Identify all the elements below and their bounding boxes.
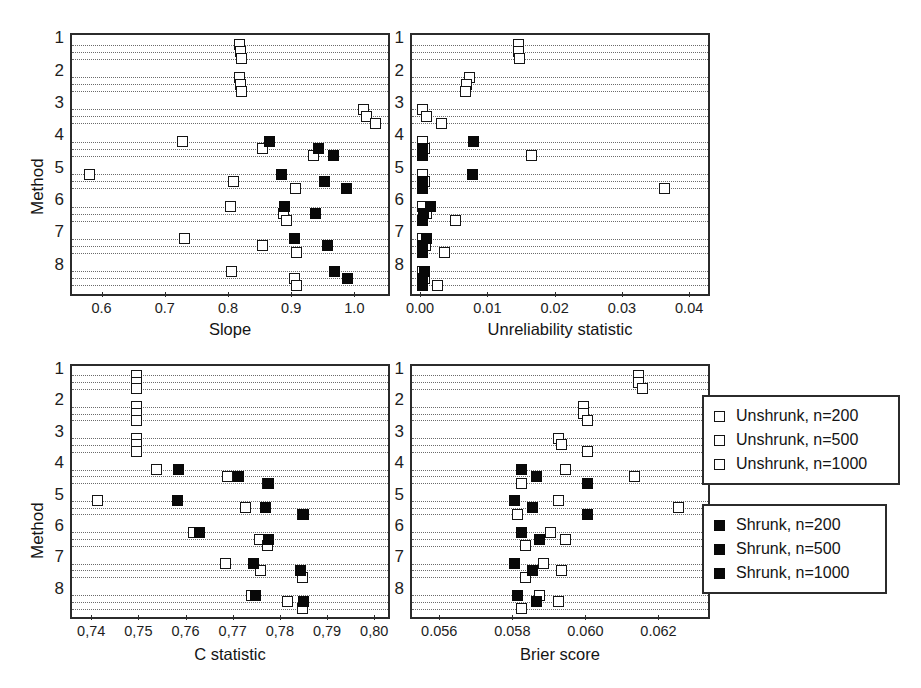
- legend-label: Shrunk, n=200: [736, 516, 841, 534]
- y-tick-label-method-5: 5: [384, 158, 404, 178]
- data-point-shrunk: [233, 471, 244, 482]
- x-tick-label: 0,76: [171, 623, 199, 639]
- data-point-unshrunk: [512, 509, 523, 520]
- gridline: [72, 253, 388, 254]
- x-tickmark: [233, 615, 234, 620]
- gridline: [72, 123, 388, 124]
- x-tick-label: 1.0: [344, 300, 364, 316]
- open-square-icon: [714, 459, 725, 470]
- gridline: [72, 595, 388, 596]
- data-point-shrunk: [289, 233, 300, 244]
- gridline: [412, 452, 708, 453]
- y-tick-label-method-3: 3: [384, 93, 404, 113]
- data-point-shrunk: [310, 208, 321, 219]
- gridline: [72, 52, 388, 53]
- gridline: [72, 45, 388, 46]
- gridline: [72, 109, 388, 110]
- legend-item: Unshrunk, n=200: [714, 404, 886, 428]
- panel-unreliability: 0.000.010.020.030.0412345678 Unreliabili…: [390, 0, 720, 344]
- data-point-shrunk: [342, 273, 353, 284]
- gridline: [412, 375, 708, 376]
- data-point-unshrunk: [220, 558, 231, 569]
- data-point-shrunk: [509, 558, 520, 569]
- y-tick-label-method-5: 5: [44, 485, 64, 505]
- x-tickmark: [165, 292, 166, 297]
- y-tick-label-method-4: 4: [44, 125, 64, 145]
- gridline: [412, 407, 708, 408]
- panel-brier-score-plot-area: [410, 364, 710, 619]
- data-point-shrunk: [531, 596, 542, 607]
- y-tick-label-method-7: 7: [44, 547, 64, 567]
- legend-shrunk: Shrunk, n=200 Shrunk, n=500 Shrunk, n=10…: [702, 504, 887, 594]
- x-tick-label: 0,75: [124, 623, 152, 639]
- gridline: [72, 539, 388, 540]
- x-tick-label: 0.062: [640, 623, 676, 639]
- gridline: [412, 84, 708, 85]
- data-point-shrunk: [527, 502, 538, 513]
- y-tick-label-method-7: 7: [384, 547, 404, 567]
- gridline: [412, 239, 708, 240]
- legend-item: Shrunk, n=500: [714, 537, 873, 561]
- y-tick-label-method-3: 3: [44, 422, 64, 442]
- gridline: [412, 414, 708, 415]
- x-tick-label: 0,77: [219, 623, 247, 639]
- gridline: [72, 602, 388, 603]
- panel-brier-score-xlabel: Brier score: [520, 645, 600, 664]
- filled-square-icon: [714, 544, 725, 555]
- gridline: [72, 214, 388, 215]
- panel-c-statistic: Method 0,740,750,760,770,780,790,8012345…: [0, 344, 420, 688]
- gridline: [72, 116, 388, 117]
- legend-label: Unshrunk, n=1000: [736, 455, 867, 473]
- data-point-unshrunk: [439, 247, 450, 258]
- data-point-unshrunk: [629, 471, 640, 482]
- y-tick-label-method-1: 1: [44, 359, 64, 379]
- x-tickmark: [102, 292, 103, 297]
- data-point-unshrunk: [291, 280, 302, 291]
- gridline: [72, 438, 388, 439]
- y-tick-label-method-4: 4: [384, 125, 404, 145]
- x-tick-label: 0,80: [360, 623, 388, 639]
- x-tickmark: [354, 292, 355, 297]
- data-point-shrunk: [582, 478, 593, 489]
- y-tick-label-method-6: 6: [44, 516, 64, 536]
- data-point-shrunk: [194, 527, 205, 538]
- data-point-unshrunk: [131, 415, 142, 426]
- data-point-unshrunk: [516, 478, 527, 489]
- data-point-unshrunk: [582, 415, 593, 426]
- data-point-shrunk: [322, 240, 333, 251]
- gridline: [72, 609, 388, 610]
- gridline: [72, 452, 388, 453]
- legend-item: Shrunk, n=1000: [714, 561, 873, 585]
- data-point-unshrunk: [553, 596, 564, 607]
- panel-slope: Method 0.60.70.80.91.012345678 Slope: [0, 0, 420, 344]
- x-tickmark: [585, 615, 586, 620]
- x-tickmark: [138, 615, 139, 620]
- gridline: [72, 246, 388, 247]
- data-point-unshrunk: [240, 502, 251, 513]
- data-point-unshrunk: [436, 118, 447, 129]
- y-tick-label-method-5: 5: [44, 158, 64, 178]
- gridline: [412, 123, 708, 124]
- x-tick-label: 0.04: [675, 300, 703, 316]
- open-square-icon: [714, 435, 725, 446]
- gridline: [412, 149, 708, 150]
- data-point-unshrunk: [225, 201, 236, 212]
- x-tick-label: 0.02: [541, 300, 569, 316]
- legend-label: Unshrunk, n=500: [736, 431, 858, 449]
- gridline: [72, 546, 388, 547]
- gridline: [412, 271, 708, 272]
- data-point-unshrunk: [460, 86, 471, 97]
- x-tickmark: [622, 292, 623, 297]
- y-tick-label-method-4: 4: [384, 453, 404, 473]
- data-point-unshrunk: [236, 53, 247, 64]
- x-tick-label: 0.9: [281, 300, 301, 316]
- gridline: [72, 156, 388, 157]
- y-tick-label-method-2: 2: [44, 390, 64, 410]
- data-point-unshrunk: [450, 215, 461, 226]
- panel-slope-xlabel: Slope: [209, 320, 251, 339]
- data-point-unshrunk: [131, 446, 142, 457]
- y-tick-label-method-2: 2: [44, 61, 64, 81]
- data-point-shrunk: [467, 169, 478, 180]
- gridline: [412, 52, 708, 53]
- data-point-unshrunk: [222, 471, 233, 482]
